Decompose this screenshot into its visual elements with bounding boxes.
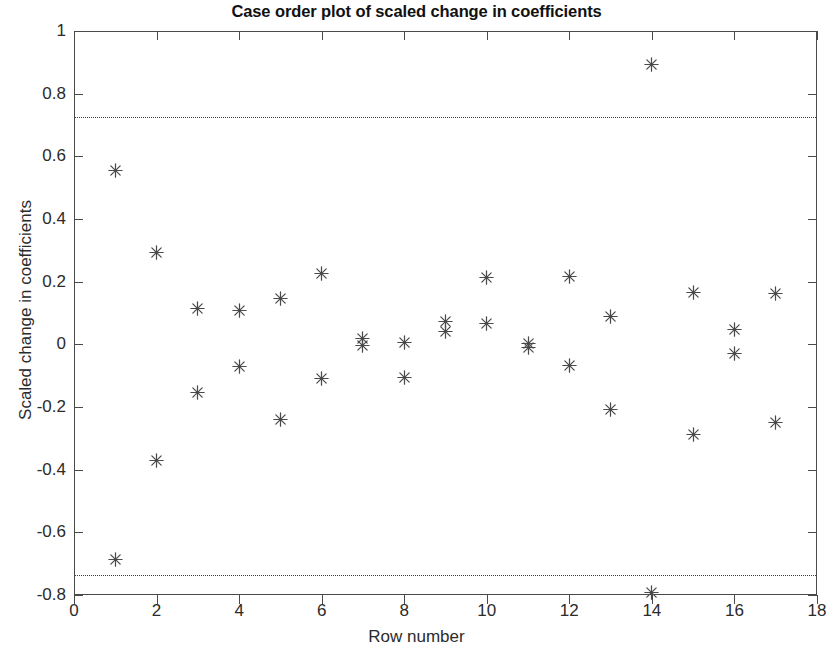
data-point[interactable] bbox=[643, 584, 660, 601]
x-axis-tick-label: 8 bbox=[374, 602, 434, 619]
y-axis-tick-label: -0.8 bbox=[0, 586, 66, 603]
data-point[interactable] bbox=[107, 162, 124, 179]
x-axis-tick-label: 0 bbox=[44, 602, 104, 619]
y-axis-tick bbox=[74, 595, 83, 596]
data-point[interactable] bbox=[685, 284, 702, 301]
figure-canvas: Case order plot of scaled change in coef… bbox=[0, 0, 833, 654]
x-axis-tick-label: 10 bbox=[457, 602, 517, 619]
y-axis-tick-label: -0.6 bbox=[0, 523, 66, 540]
x-axis-label: Row number bbox=[0, 627, 833, 647]
data-point[interactable] bbox=[272, 290, 289, 307]
data-point[interactable] bbox=[313, 370, 330, 387]
data-point[interactable] bbox=[520, 339, 537, 356]
data-point[interactable] bbox=[107, 551, 124, 568]
data-point[interactable] bbox=[478, 315, 495, 332]
data-point[interactable] bbox=[643, 56, 660, 73]
data-point[interactable] bbox=[231, 302, 248, 319]
data-point[interactable] bbox=[189, 300, 206, 317]
x-axis-tick-label: 6 bbox=[292, 602, 352, 619]
x-axis-tick-label: 14 bbox=[622, 602, 682, 619]
data-point[interactable] bbox=[685, 426, 702, 443]
data-point[interactable] bbox=[354, 337, 371, 354]
data-point[interactable] bbox=[602, 401, 619, 418]
x-axis-tick bbox=[817, 31, 818, 40]
data-point[interactable] bbox=[561, 357, 578, 374]
data-point[interactable] bbox=[189, 384, 206, 401]
data-point[interactable] bbox=[313, 265, 330, 282]
data-point[interactable] bbox=[396, 369, 413, 386]
data-point[interactable] bbox=[231, 358, 248, 375]
data-point[interactable] bbox=[767, 414, 784, 431]
scatter-plot-area[interactable] bbox=[74, 31, 817, 595]
data-point[interactable] bbox=[561, 268, 578, 285]
data-point[interactable] bbox=[726, 321, 743, 338]
page-title: Case order plot of scaled change in coef… bbox=[0, 2, 833, 21]
y-axis-label: Scaled change in coefficients bbox=[16, 150, 36, 470]
data-point[interactable] bbox=[478, 269, 495, 286]
y-axis-tick bbox=[808, 595, 817, 596]
x-axis-tick-label: 18 bbox=[787, 602, 833, 619]
data-point[interactable] bbox=[148, 244, 165, 261]
data-point[interactable] bbox=[602, 308, 619, 325]
data-point[interactable] bbox=[437, 323, 454, 340]
x-axis-tick-label: 2 bbox=[127, 602, 187, 619]
data-point[interactable] bbox=[148, 452, 165, 469]
x-axis-tick-label: 16 bbox=[704, 602, 764, 619]
data-point[interactable] bbox=[396, 334, 413, 351]
x-axis-tick-label: 4 bbox=[209, 602, 269, 619]
y-axis-tick-label: 0.8 bbox=[0, 85, 66, 102]
data-point[interactable] bbox=[767, 285, 784, 302]
data-point[interactable] bbox=[272, 411, 289, 428]
data-point[interactable] bbox=[726, 345, 743, 362]
y-axis-tick-label: 1 bbox=[0, 22, 66, 39]
x-axis-tick-label: 12 bbox=[539, 602, 599, 619]
